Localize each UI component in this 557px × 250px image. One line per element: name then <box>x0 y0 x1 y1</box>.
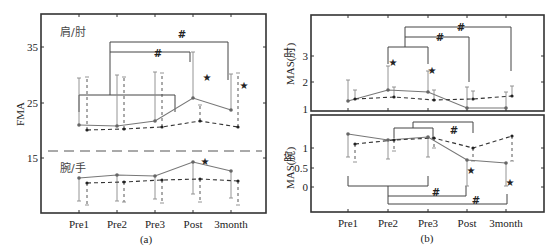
sig-star: ★ <box>240 80 249 91</box>
panel-b-xlabels: Pre1 Pre2 Pre3 Post 3month <box>338 217 523 229</box>
sig-hash: # <box>436 32 444 43</box>
xtick-label: Pre2 <box>107 218 127 230</box>
markers <box>85 177 239 184</box>
xtick-label: 3month <box>214 218 248 230</box>
figure: 35 25 15 FMA 肩/肘 腕/手 # # ★ ★ ★ <box>0 0 557 250</box>
xtick-label: 3month <box>489 217 523 229</box>
xtick-label: Post <box>184 218 203 230</box>
panel-a-yticks: 35 25 15 <box>27 41 266 164</box>
xtick-label: Pre3 <box>418 217 439 229</box>
xtick-label: Pre3 <box>145 218 166 230</box>
panel-b-top-ylabel: MAS(肘) <box>283 43 297 86</box>
panel-a-frame <box>41 14 266 213</box>
xtick-label: Post <box>458 217 477 229</box>
xtick-label: Pre1 <box>69 218 89 230</box>
sig-star: ★ <box>428 65 437 76</box>
sig-star: ★ <box>203 72 212 83</box>
sig-hash: # <box>472 195 480 206</box>
sig-hash: # <box>457 22 465 33</box>
panel-a-xlabels: Pre1 Pre2 Pre3 Post 3month <box>69 218 248 230</box>
sig-hash: # <box>178 29 186 40</box>
ytick-label: 0.5 <box>294 162 308 174</box>
panel-a-ylabel: FMA <box>14 102 26 126</box>
panel-a-brackets: # # ★ ★ ★ <box>79 29 249 167</box>
sig-hash: # <box>432 187 440 198</box>
xtick-label: Pre2 <box>378 217 398 229</box>
region-label-wrist-hand: 腕/手 <box>60 161 86 175</box>
panel-b: 3 2 1 MAS(肘) # # ★ ★ <box>283 15 544 245</box>
panel-b-bottom-brackets: # # # ★ ★ <box>348 122 515 206</box>
xtick-label: Pre1 <box>338 217 358 229</box>
ytick-label: 3 <box>303 50 309 62</box>
panel-a-errorbars-lower <box>77 162 240 205</box>
ytick-label: 35 <box>27 41 39 53</box>
panel-a: 35 25 15 FMA 肩/肘 腕/手 # # ★ ★ ★ <box>14 14 266 246</box>
region-label-shoulder-elbow: 肩/肘 <box>60 25 86 39</box>
panel-b-top-brackets: # # ★ ★ <box>388 22 511 82</box>
ytick-label: 25 <box>27 97 39 109</box>
ytick-label: 2 <box>303 76 309 88</box>
panel-b-bottom-frame <box>311 115 544 212</box>
sig-star: ★ <box>467 165 476 176</box>
panel-b-caption: (b) <box>421 232 434 245</box>
ytick-label: 15 <box>27 152 39 164</box>
sig-hash: # <box>450 125 458 136</box>
ytick-label: 1 <box>303 142 309 154</box>
ytick-label: 0 <box>303 181 309 193</box>
ytick-label: 1 <box>303 103 309 115</box>
panel-a-caption: (a) <box>140 233 153 246</box>
panel-b-bottom-ylabel: MAS(腕) <box>283 147 297 190</box>
sig-hash: # <box>154 48 162 59</box>
panel-b-top-ticks: 3 2 1 <box>303 15 545 115</box>
